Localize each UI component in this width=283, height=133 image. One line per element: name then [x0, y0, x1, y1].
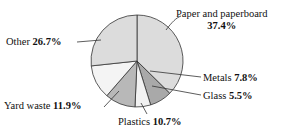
slice-label-other: Other 26.7% — [6, 36, 61, 48]
slice-label-paper: Paper and paperboard 37.4% — [176, 8, 268, 32]
slice-label-paper-percent: 37.4% — [207, 20, 236, 31]
slice-label-paper-name: Paper and paperboard — [176, 8, 268, 19]
slice-label-yard-waste-name: Yard waste — [4, 100, 50, 111]
slice-label-other-percent: 26.7% — [33, 36, 62, 47]
slice-label-yard-waste-percent: 11.9% — [53, 100, 81, 111]
slice-label-glass: Glass 5.5% — [203, 90, 253, 102]
slice-label-yard-waste: Yard waste 11.9% — [4, 100, 81, 112]
slice-label-metals: Metals 7.8% — [203, 72, 258, 84]
slice-label-metals-percent: 7.8% — [234, 72, 258, 83]
slice-label-other-name: Other — [6, 36, 30, 47]
slice-label-plastics: Plastics 10.7% — [118, 116, 182, 128]
slice-label-metals-name: Metals — [203, 72, 232, 83]
slice-label-plastics-name: Plastics — [118, 116, 150, 127]
slice-label-glass-percent: 5.5% — [229, 90, 253, 101]
pie-chart-figure: Paper and paperboard 37.4% Other 26.7% M… — [0, 0, 283, 133]
slice-label-glass-name: Glass — [203, 90, 226, 101]
slice-label-plastics-percent: 10.7% — [153, 116, 182, 127]
pie-slice-group — [91, 15, 183, 107]
